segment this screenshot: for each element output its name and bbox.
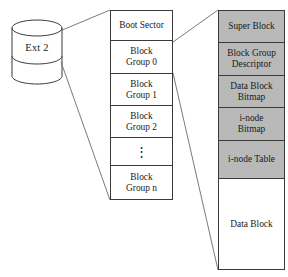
partition-cell-label: Boot Sector: [113, 20, 170, 31]
block-group-cell-data-block-bitmap: Data Block Bitmap: [219, 76, 284, 108]
partition-cell-block-group-0: Block Group 0: [111, 41, 172, 74]
partition-cell-block-group-1: Block Group 1: [111, 74, 172, 106]
partition-cell-block-group-n: Block Group n: [111, 166, 172, 199]
block-group-cell-label: i-node Bitmap: [221, 113, 282, 135]
partition-cell-label: Block Group n: [113, 172, 170, 194]
disk-label: Ext 2: [12, 42, 62, 54]
ext2-layout-diagram: Ext 2 Boot Sector Block Group 0 Block Gr…: [0, 0, 288, 277]
partition-cell-ellipsis: ⋮: [111, 138, 172, 166]
partition-column: Boot Sector Block Group 0 Block Group 1 …: [110, 10, 173, 200]
block-group-column: Super Block Block Group Descriptor Data …: [218, 10, 285, 270]
connector-partition-to-blockgroup: [173, 10, 218, 270]
block-group-cell-label: Data Block Bitmap: [221, 81, 282, 103]
block-group-cell-inode-bitmap: i-node Bitmap: [219, 108, 284, 141]
block-group-cell-label: Data Block: [221, 219, 282, 230]
block-group-cell-super-block: Super Block: [219, 11, 284, 43]
vertical-ellipsis-icon: ⋮: [113, 147, 170, 157]
partition-cell-label: Block Group 2: [113, 111, 170, 133]
block-group-cell-block-group-descriptor: Block Group Descriptor: [219, 43, 284, 76]
block-group-cell-data-block: Data Block: [219, 179, 284, 269]
partition-cell-label: Block Group 0: [113, 46, 170, 68]
connector-disk-to-partition: [60, 10, 110, 200]
block-group-cell-inode-table: i-node Table: [219, 141, 284, 179]
partition-cell-label: Block Group 1: [113, 79, 170, 101]
block-group-cell-label: Super Block: [221, 21, 282, 32]
partition-cell-block-group-2: Block Group 2: [111, 106, 172, 138]
partition-cell-boot-sector: Boot Sector: [111, 11, 172, 41]
block-group-cell-label: i-node Table: [221, 154, 282, 165]
block-group-cell-label: Block Group Descriptor: [221, 48, 282, 70]
